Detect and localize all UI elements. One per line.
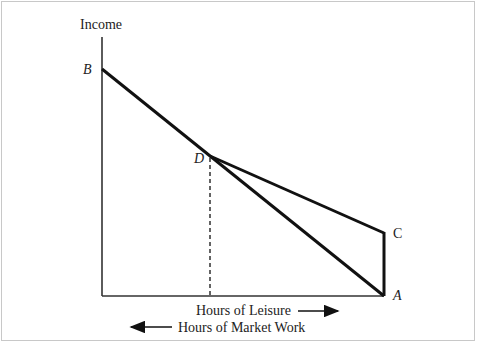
income-leisure-diagram: Income B D C A Hours of Leisure Hours of…	[0, 0, 486, 354]
point-label-D: D	[193, 151, 204, 166]
point-label-A: A	[392, 288, 402, 303]
point-label-B: B	[83, 62, 92, 77]
budget-line-B-A	[102, 69, 384, 296]
point-label-C: C	[393, 226, 402, 241]
x-axis-label-leisure: Hours of Leisure	[196, 303, 291, 318]
kinked-line-D-C	[210, 156, 384, 233]
y-axis-label: Income	[80, 17, 122, 32]
x-axis-label-market-work: Hours of Market Work	[178, 320, 305, 335]
